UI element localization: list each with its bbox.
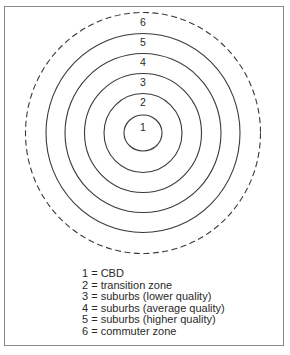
zone-ring-label-1: 1 — [140, 121, 146, 133]
zone-rings — [26, 13, 261, 254]
zone-ring-label-6: 6 — [140, 16, 146, 28]
zone-ring-label-2: 2 — [140, 96, 146, 108]
legend-item-cbd: 1 = CBD — [82, 268, 225, 280]
zone-ring-3 — [85, 74, 202, 193]
zone-ring-label-5: 5 — [140, 36, 146, 48]
zone-ring-label-3: 3 — [140, 76, 146, 88]
legend-item-commuter-zone: 6 = commuter zone — [82, 326, 225, 338]
zone-ring-label-4: 4 — [140, 56, 146, 68]
zone-legend: 1 = CBD 2 = transition zone 3 = suburbs … — [82, 268, 225, 338]
zone-ring-6 — [26, 13, 261, 254]
